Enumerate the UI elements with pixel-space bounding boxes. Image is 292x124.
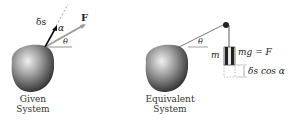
theta-label: θ [198,38,203,46]
given-system [12,4,86,92]
displacement-projection-label: δs cos α [248,67,285,76]
given-caption: Given System [8,95,58,114]
caption-line-1: Given [8,95,58,104]
displacement-arrowhead-icon [52,25,57,31]
displaced-block-outline [224,65,235,77]
force-arrowhead-icon [80,24,86,29]
alpha-label: α [58,24,64,33]
mass-shade-right [231,47,234,65]
equivalent-body [146,45,189,92]
caption-line-2: System [8,105,58,114]
displacement-label: δs [36,18,46,27]
weight-equation-label: mg = F [238,48,272,57]
caption-line-2: System [140,105,200,114]
given-body [12,45,55,92]
mass-label: m [211,51,220,60]
equivalent-caption: Equivalent System [140,95,200,114]
mass-shade-left [225,47,228,65]
theta-label: θ [63,38,68,46]
pulley-icon [223,22,229,28]
equivalent-system [146,22,247,92]
caption-line-1: Equivalent [140,95,200,104]
force-label: F [81,13,88,23]
